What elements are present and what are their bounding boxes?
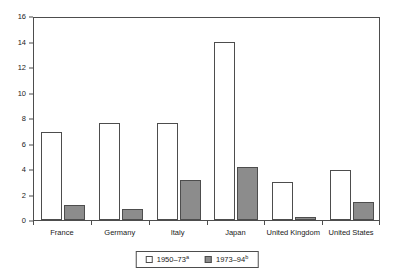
- plot-area: [33, 17, 380, 221]
- y-axis-tick-label: 4: [22, 166, 26, 174]
- x-axis-tick-mark: [322, 221, 323, 225]
- y-axis-tick-label: 12: [18, 64, 26, 72]
- white-square-swatch: [146, 256, 153, 263]
- x-axis-tick-mark: [33, 221, 34, 225]
- chart-legend: 1950–73a1973–94b: [136, 251, 259, 268]
- x-axis-label-japan: Japan: [225, 228, 245, 238]
- bar-germany-1950-73: [99, 123, 120, 220]
- bar-italy-1950-73: [157, 123, 178, 220]
- legend-label: 1950–73a: [157, 255, 189, 264]
- bar-united-kingdom-1950-73: [272, 182, 293, 220]
- bar-france-1973-94: [64, 205, 85, 220]
- x-axis-tick-mark: [149, 221, 150, 225]
- y-axis-tick-label: 16: [18, 13, 26, 21]
- y-axis-tick-label: 6: [22, 141, 26, 149]
- bar-japan-1973-94: [237, 167, 258, 220]
- x-axis-label-france: France: [50, 228, 73, 238]
- y-axis-tick-labels: 0246810121416: [0, 17, 26, 221]
- bar-united-states-1973-94: [353, 202, 374, 220]
- x-axis-label-united-kingdom: United Kingdom: [267, 228, 320, 238]
- legend-footnote-marker: b: [245, 254, 248, 260]
- bar-germany-1973-94: [122, 209, 143, 220]
- bar-france-1950-73: [41, 132, 62, 220]
- legend-entry-1950-73: 1950–73a: [146, 255, 189, 264]
- x-axis-category-labels: FranceGermanyItalyJapanUnited KingdomUni…: [33, 228, 380, 242]
- y-axis-tick-label: 10: [18, 90, 26, 98]
- x-axis-tick-mark: [379, 221, 380, 225]
- bar-united-kingdom-1973-94: [295, 217, 316, 220]
- bar-chart-figure: 0246810121416 FranceGermanyItalyJapanUni…: [0, 0, 394, 277]
- legend-entry-1973-94: 1973–94b: [205, 255, 248, 264]
- bars-layer: [34, 18, 379, 220]
- y-axis-tick-label: 14: [18, 39, 26, 47]
- x-axis-tick-mark: [264, 221, 265, 225]
- x-axis-tick-mark: [207, 221, 208, 225]
- x-axis-label-united-states: United States: [329, 228, 374, 238]
- bar-japan-1950-73: [214, 42, 235, 221]
- gray-square-swatch: [205, 256, 212, 263]
- x-axis-label-italy: Italy: [171, 228, 185, 238]
- y-axis-tick-label: 0: [22, 217, 26, 225]
- x-axis-tick-marks: [33, 221, 380, 226]
- x-axis-label-germany: Germany: [104, 228, 135, 238]
- bar-united-states-1950-73: [330, 170, 351, 220]
- y-axis-tick-label: 2: [22, 192, 26, 200]
- bar-italy-1973-94: [180, 180, 201, 220]
- legend-footnote-marker: a: [186, 254, 189, 260]
- legend-label: 1973–94b: [216, 255, 248, 264]
- y-axis-tick-label: 8: [22, 115, 26, 123]
- x-axis-tick-mark: [91, 221, 92, 225]
